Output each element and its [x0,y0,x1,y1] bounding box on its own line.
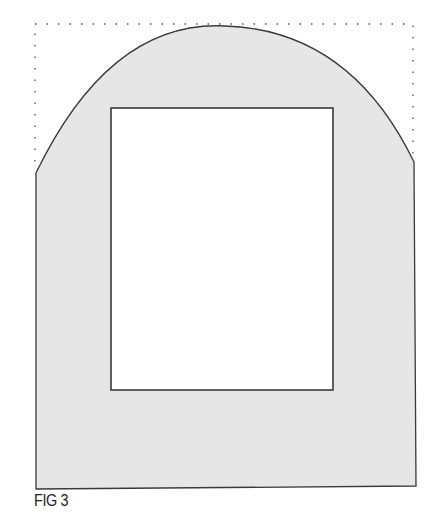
arched-frame-diagram [0,0,440,517]
inner-opening [111,108,333,390]
figure-caption: FIG 3 [34,491,68,511]
